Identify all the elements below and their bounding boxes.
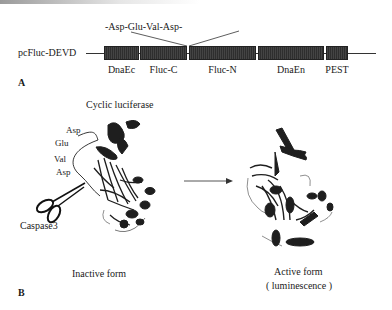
loop-residue-asp-2: Asp <box>56 168 71 177</box>
cyclic-luciferase-title: Cyclic luciferase <box>86 100 153 110</box>
active-form-label: Active form <box>274 267 323 277</box>
active-luciferase-structure <box>247 128 333 246</box>
devd-loop <box>73 132 100 196</box>
activation-arrow <box>184 178 233 184</box>
inactive-luciferase-structure <box>94 120 155 231</box>
loop-residue-asp-1: Asp <box>66 126 81 135</box>
luminescence-label: ( luminescence ) <box>266 281 332 291</box>
loop-residue-val: Val <box>54 155 66 164</box>
inactive-form-label: Inactive form <box>72 269 126 279</box>
scissors-icon <box>35 183 85 224</box>
loop-residue-glu: Glu <box>55 139 69 148</box>
linker-callout-lines <box>131 31 239 46</box>
caspase3-label: Caspase3 <box>20 221 58 231</box>
panel-b-label: B <box>18 288 25 298</box>
